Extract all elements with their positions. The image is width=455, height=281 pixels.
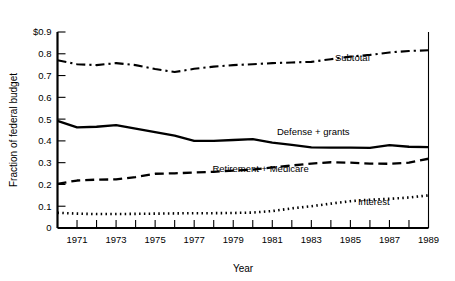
y-tick-label: 0.7 [38,70,51,81]
series-label-subtotal: Subtotal [335,52,370,63]
y-tick-label: $0.9 [33,26,52,37]
y-tick-label: 0.5 [38,114,51,125]
x-tick-label: 1975 [145,234,166,245]
series-label-retirement-medicare: Retirement + Medicare [212,163,308,174]
series-label-interest: Interest [358,196,390,207]
y-tick-label: 0 [46,222,51,233]
series-label-defense-grants: Defense + grants [277,126,350,137]
x-tick-label: 1971 [66,234,87,245]
x-tick-label: 1989 [418,234,439,245]
y-tick-label: 0.3 [38,157,51,168]
y-tick-label: 0.6 [38,92,51,103]
y-axis-title: Fraction of federal budget [8,73,19,187]
x-tick-label: 1987 [379,234,400,245]
x-tick-label: 1985 [340,234,361,245]
x-tick-label: 1979 [223,234,244,245]
y-tick-label: 0.8 [38,48,51,59]
y-tick-label: 0.4 [38,135,51,146]
line-chart: Fraction of federal budget 00.10.20.30.4… [0,0,455,281]
x-axis-title: Year [233,263,254,274]
x-tick-label: 1977 [184,234,205,245]
y-tick-label: 0.1 [38,201,51,212]
x-tick-label: 1981 [262,234,283,245]
x-tick-label: 1983 [301,234,322,245]
x-tick-label: 1973 [106,234,127,245]
y-tick-label: 0.2 [38,179,51,190]
chart-container: Fraction of federal budget 00.10.20.30.4… [0,0,455,281]
